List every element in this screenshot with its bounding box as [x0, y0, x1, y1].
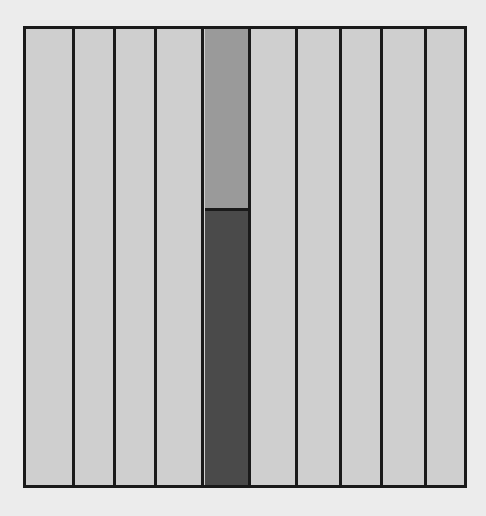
- fraction-grid: [23, 26, 467, 488]
- column-10: [425, 29, 467, 485]
- shaded-light-region: [205, 29, 249, 211]
- column-3: [114, 29, 155, 485]
- column-divider: [201, 29, 204, 485]
- column-1: [26, 29, 73, 485]
- column-divider: [154, 29, 157, 485]
- column-divider: [72, 29, 75, 485]
- column-divider: [113, 29, 116, 485]
- column-9: [381, 29, 425, 485]
- column-divider: [248, 29, 251, 485]
- column-2: [73, 29, 114, 485]
- column-divider: [339, 29, 342, 485]
- column-divider: [295, 29, 298, 485]
- column-8: [340, 29, 381, 485]
- column-divider: [380, 29, 383, 485]
- shaded-dark-region: [205, 208, 249, 485]
- column-6: [249, 29, 296, 485]
- column-5: [202, 29, 249, 485]
- column-7: [296, 29, 340, 485]
- column-4: [155, 29, 202, 485]
- column-divider: [424, 29, 427, 485]
